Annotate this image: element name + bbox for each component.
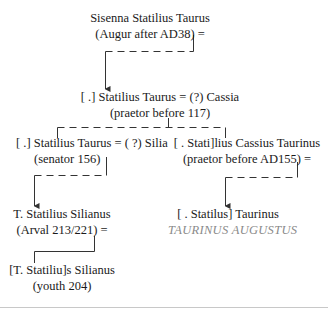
node-statilius-taurus-senator: [ .] Statilius Taurus = ( ?) Silia (sena… <box>5 135 155 167</box>
node-name: [ .] Statilius Taurus = (?) Cassia <box>60 89 260 105</box>
node-name: Sisenna Statilius Taurus <box>90 10 210 26</box>
node-detail: (praetor before AD155) = <box>172 151 322 167</box>
node-statilius-taurus-praetor: [ .] Statilius Taurus = (?) Cassia (prae… <box>60 89 260 121</box>
node-name: [ .] Statilius Taurus = ( ?) Silia <box>5 135 155 151</box>
node-detail: (senator 156) <box>5 151 155 167</box>
node-cassius-taurinus: [ . Stati]lius Cassius Taurinus (praetor… <box>172 135 322 167</box>
node-silianus-arval: T. Statilius Silianus (Arval 213/221) = <box>0 206 124 238</box>
node-detail: (Augur after AD38) = <box>90 26 210 42</box>
node-detail: (youth 204) <box>0 278 124 294</box>
node-detail: (praetor before 117) <box>60 105 260 121</box>
bottom-divider <box>0 307 328 308</box>
node-taurinus: [ . Statilus] Taurinus TAURINUS AUGUSTUS <box>168 206 288 238</box>
node-detail: (Arval 213/221) = <box>0 222 124 238</box>
node-name: [T. Statiliu]s Silianus <box>0 262 124 278</box>
node-sisenna-statilius-taurus: Sisenna Statilius Taurus (Augur after AD… <box>90 10 210 42</box>
node-name: [ . Statilus] Taurinus <box>168 206 288 222</box>
node-title-grey: TAURINUS AUGUSTUS <box>168 222 288 238</box>
node-name: [ . Stati]lius Cassius Taurinus <box>172 135 322 151</box>
node-silianus-youth: [T. Statiliu]s Silianus (youth 204) <box>0 262 124 294</box>
node-name: T. Statilius Silianus <box>0 206 124 222</box>
